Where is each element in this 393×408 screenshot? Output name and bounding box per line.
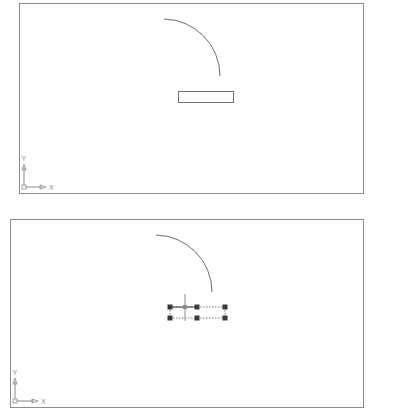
grip-top-right[interactable] xyxy=(223,305,228,310)
grip-bottom-left[interactable] xyxy=(168,316,173,321)
grip-bottom-right[interactable] xyxy=(223,316,228,321)
grip-bottom-middle[interactable] xyxy=(195,316,200,321)
grip-top-left[interactable] xyxy=(168,305,173,310)
drawing-viewport-bottom[interactable] xyxy=(10,219,364,408)
grip-top-middle[interactable] xyxy=(195,305,200,310)
drawing-viewport-top[interactable] xyxy=(19,3,364,194)
